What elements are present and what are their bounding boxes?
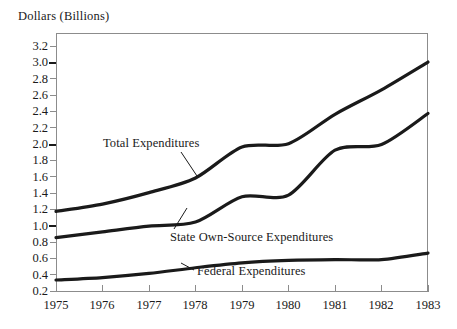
series-line-state-own-source-expenditures (56, 113, 428, 237)
series-label-state-own-source-expenditures: State Own-Source Expenditures (170, 231, 333, 244)
series-label-federal-expenditures: Federal Expenditures (197, 265, 306, 278)
leader-line-total (181, 152, 197, 176)
series-label-total-expenditures: Total Expenditures (103, 137, 199, 150)
series-lines (0, 0, 457, 329)
expenditures-line-chart: Dollars (Billions) 3.2 3.0 2.8 2.6 2.4 2… (0, 0, 457, 329)
